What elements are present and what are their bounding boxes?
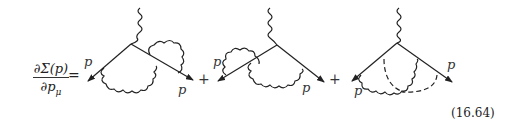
external-photon-1 xyxy=(131,8,142,44)
label-p-out-3: p xyxy=(447,57,456,72)
feynman-diagrams: p p p p p p + + xyxy=(0,0,519,128)
diagram-2 xyxy=(218,8,324,88)
label-p-out-1: p xyxy=(178,82,187,97)
fermion-in-2 xyxy=(218,45,277,81)
dashed-line-1 xyxy=(384,59,404,92)
equation-number: (16.64) xyxy=(451,106,495,120)
vertex-photon-2 xyxy=(248,63,303,88)
label-p-in-1: p xyxy=(84,54,93,69)
label-p-in-3: p xyxy=(354,83,363,98)
vertex-photon-3 xyxy=(359,59,418,95)
vertex-photon-1 xyxy=(101,66,157,93)
label-p-out-2: p xyxy=(302,80,311,95)
loop-photon-2 xyxy=(223,48,259,75)
plus-sign-2: + xyxy=(329,71,341,87)
fermion-in-3 xyxy=(352,43,397,81)
fermion-out-3 xyxy=(397,43,452,82)
plus-sign-1: + xyxy=(198,71,210,87)
external-photon-3 xyxy=(397,8,401,43)
diagram-1 xyxy=(88,8,193,93)
external-photon-2 xyxy=(268,8,277,45)
diagram-3 xyxy=(352,8,452,95)
fermion-in-1 xyxy=(88,44,131,81)
label-p-in-2: p xyxy=(213,54,222,69)
